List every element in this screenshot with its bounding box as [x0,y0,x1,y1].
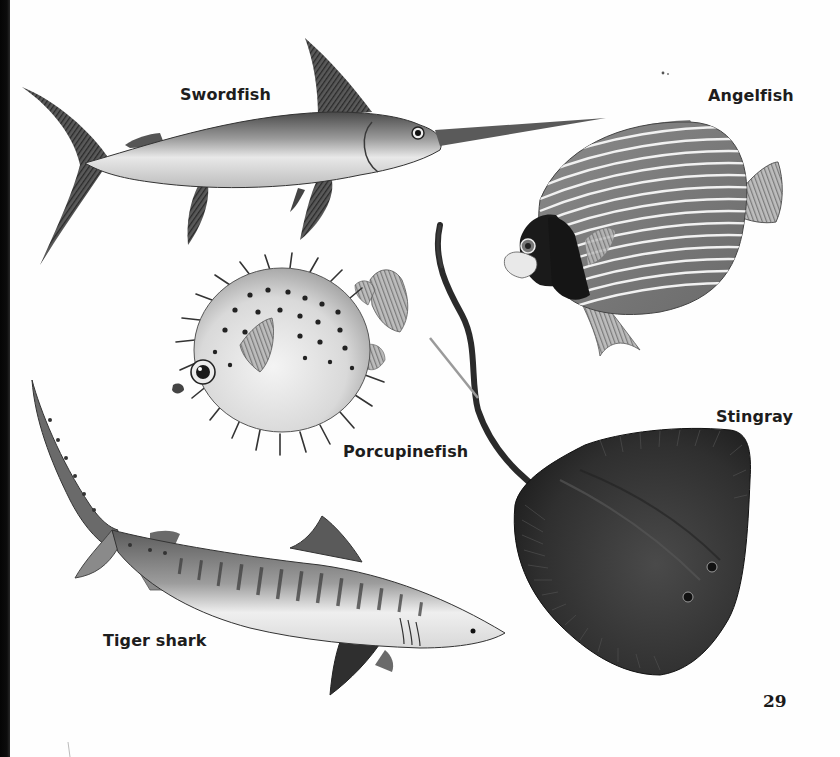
page-number: 29 [763,691,787,711]
stingray-label: Stingray [716,407,793,426]
swordfish-label: Swordfish [180,85,271,104]
scan-edge-shadow [0,0,10,757]
swordfish-illustration [22,38,606,265]
tiger-shark-label: Tiger shark [103,631,207,650]
porcupinefish-illustration [172,253,408,455]
scan-speck [662,72,665,75]
scan-artifact [68,742,70,757]
angelfish-label: Angelfish [708,86,794,105]
angelfish-illustration [504,120,782,356]
book-page: Swordfish Angelfish Porcupinefish Stingr… [10,0,840,757]
porcupinefish-label: Porcupinefish [343,442,468,461]
